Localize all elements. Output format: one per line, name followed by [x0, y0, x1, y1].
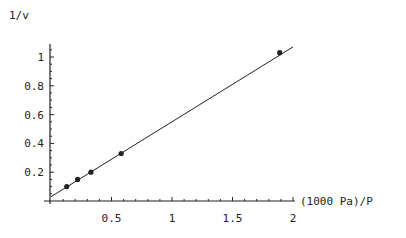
data-point: [75, 177, 80, 182]
y-tick-label: 0.8: [24, 80, 44, 93]
x-tick-label: 1: [169, 212, 176, 225]
y-axis-label: 1/v: [9, 9, 29, 22]
tick-labels: 0.511.520.20.40.60.81: [24, 51, 296, 225]
data-point: [119, 151, 124, 156]
data-point: [277, 50, 282, 55]
fit-line: [51, 47, 293, 197]
data-point: [64, 184, 69, 189]
tick-marks: [50, 50, 293, 201]
x-axis-label: (1000 Pa)/P: [300, 195, 373, 208]
y-tick-label: 0.6: [24, 109, 44, 122]
chart: 0.511.520.20.40.60.81 1/v (1000 Pa)/P: [0, 0, 406, 238]
regression-line: [51, 47, 293, 197]
x-tick-label: 1.5: [223, 212, 243, 225]
y-tick-label: 0.2: [24, 166, 44, 179]
data-point: [88, 170, 93, 175]
y-tick-label: 0.4: [24, 137, 44, 150]
y-tick-label: 1: [37, 51, 44, 64]
x-tick-label: 0.5: [102, 212, 122, 225]
x-tick-label: 2: [290, 212, 297, 225]
axes: [44, 44, 295, 204]
